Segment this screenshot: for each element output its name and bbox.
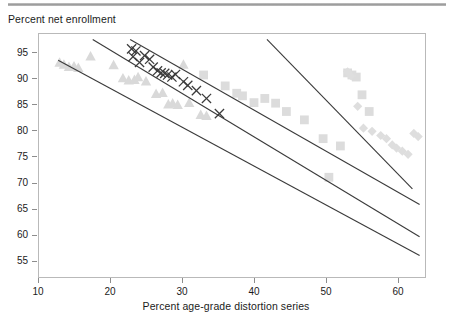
y-tick-label: 55 bbox=[17, 255, 29, 266]
data-point-square bbox=[282, 107, 291, 116]
data-point-square bbox=[300, 115, 309, 124]
scatter-plot: 556065707580859095 102030405060 bbox=[0, 0, 452, 324]
regression-lines-layer bbox=[58, 39, 419, 255]
data-point-square bbox=[336, 142, 345, 151]
data-point-square bbox=[250, 98, 259, 107]
y-tick-label: 70 bbox=[17, 177, 29, 188]
y-tick-label: 80 bbox=[17, 125, 29, 136]
data-point-square bbox=[271, 99, 280, 108]
data-point-square bbox=[199, 71, 208, 80]
x-tick-label: 30 bbox=[176, 286, 188, 297]
y-tick-label: 90 bbox=[17, 73, 29, 84]
series-squares bbox=[199, 68, 373, 181]
data-point-x bbox=[145, 55, 154, 64]
figure-canvas: Percent net enrollment 55606570758085909… bbox=[0, 0, 452, 324]
y-tick-label: 65 bbox=[17, 203, 29, 214]
y-tick-label: 75 bbox=[17, 151, 29, 162]
y-tick-label: 85 bbox=[17, 99, 29, 110]
data-point-x bbox=[183, 81, 192, 90]
data-point-triangle bbox=[157, 88, 167, 97]
data-point-triangle bbox=[85, 51, 95, 60]
data-point-diamond bbox=[359, 124, 368, 133]
data-point-triangle bbox=[184, 97, 194, 106]
x-axis-title: Percent age-grade distortion series bbox=[0, 300, 452, 312]
data-point-square bbox=[319, 134, 328, 143]
data-point-triangle bbox=[108, 60, 118, 69]
plot-frame bbox=[39, 34, 426, 278]
x-tick-label: 50 bbox=[320, 286, 332, 297]
data-point-square bbox=[238, 91, 247, 100]
y-axis-ticks: 556065707580859095 bbox=[17, 47, 37, 267]
data-point-square bbox=[260, 94, 269, 103]
y-tick-label: 60 bbox=[17, 229, 29, 240]
data-point-x bbox=[192, 86, 201, 95]
fit-line-2 bbox=[93, 39, 420, 236]
fit-line-3 bbox=[130, 39, 419, 204]
data-point-square bbox=[221, 82, 230, 91]
y-tick-label: 95 bbox=[17, 47, 29, 58]
x-tick-label: 20 bbox=[104, 286, 116, 297]
data-point-square bbox=[365, 107, 374, 116]
x-tick-label: 40 bbox=[248, 286, 260, 297]
data-point-square bbox=[358, 90, 367, 99]
data-point-x bbox=[202, 94, 211, 103]
x-tick-label: 10 bbox=[32, 286, 44, 297]
data-point-diamond bbox=[353, 102, 362, 111]
x-axis-ticks: 102030405060 bbox=[32, 278, 404, 297]
data-markers-layer bbox=[54, 44, 422, 181]
data-point-x bbox=[140, 51, 149, 60]
data-point-diamond bbox=[367, 127, 376, 136]
x-tick-label: 60 bbox=[392, 286, 404, 297]
